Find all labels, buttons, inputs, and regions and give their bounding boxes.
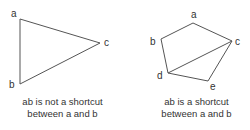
vertex-label-a: a bbox=[191, 9, 197, 20]
caption-left: ab is not a shortcut between a and b bbox=[0, 96, 125, 120]
edge-b-c bbox=[20, 43, 100, 84]
caption-right-line1: ab is a shortcut bbox=[134, 96, 250, 108]
edge-b-d bbox=[161, 39, 168, 73]
vertex-label-a: a bbox=[11, 8, 17, 19]
vertex-label-b: b bbox=[150, 36, 156, 47]
edge-a-c bbox=[20, 19, 100, 43]
vertex-label-e: e bbox=[210, 81, 216, 92]
caption-right: ab is a shortcut between a and b bbox=[134, 96, 250, 120]
vertex-label-b: b bbox=[9, 79, 15, 90]
edge-d-e bbox=[168, 73, 208, 81]
right-graph: a b c d e bbox=[150, 9, 240, 92]
vertex-label-c: c bbox=[104, 37, 109, 48]
edge-a-b bbox=[161, 23, 193, 39]
left-graph: a b c bbox=[9, 8, 109, 90]
vertex-label-c: c bbox=[235, 36, 240, 47]
edge-a-c bbox=[193, 23, 232, 41]
caption-left-line2: between a and b bbox=[0, 108, 125, 120]
vertex-label-d: d bbox=[157, 70, 163, 81]
caption-right-line2: between a and b bbox=[134, 108, 250, 120]
caption-left-line1: ab is not a shortcut bbox=[0, 96, 125, 108]
